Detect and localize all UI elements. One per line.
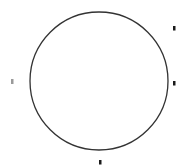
marker-right <box>173 81 176 86</box>
marker-bottom <box>99 160 102 165</box>
diagram-canvas <box>0 0 186 167</box>
background <box>0 0 186 167</box>
marker-left <box>11 79 14 84</box>
marker-top-right <box>173 26 176 31</box>
